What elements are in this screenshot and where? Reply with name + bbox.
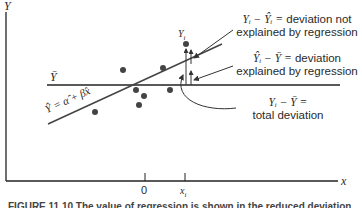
x-tick-label-0: 0 (141, 184, 147, 196)
annotation-unexplained: Yᵢ − Ŷᵢ = deviation not explained by reg… (232, 13, 362, 39)
annotation-unexplained-text1: deviation not (286, 13, 351, 25)
annotation-explained-text2: explained by regression (232, 65, 362, 78)
leader-total (181, 75, 236, 109)
annotation-total: Yᵢ − Ȳ = total deviation (238, 96, 338, 122)
point-label-yi: Yi (178, 28, 186, 42)
x-axis-label: x (341, 174, 346, 189)
annotation-explained-formula: Ŷᵢ − Ȳ = (253, 52, 292, 64)
leader-unexplained (194, 30, 233, 58)
data-points (92, 41, 189, 115)
annotation-total-text2: total deviation (238, 109, 338, 122)
y-axis-label: Y (4, 0, 11, 14)
x-tick-label-xi: xi (180, 185, 186, 199)
annotation-unexplained-text2: explained by regression (232, 26, 362, 39)
annotation-explained: Ŷᵢ − Ȳ = deviation explained by regressi… (232, 52, 362, 78)
figure-caption: FIGURE 11.10 The value of regression is … (8, 201, 351, 208)
annotation-unexplained-formula: Yᵢ − Ŷᵢ = (243, 13, 284, 25)
annotation-total-formula: Yᵢ − Ȳ = (269, 96, 308, 108)
mean-line-label: Ȳ (50, 70, 57, 85)
annotation-explained-text1: deviation (295, 52, 341, 64)
leader-explained (194, 66, 233, 80)
regression-line (48, 44, 222, 124)
